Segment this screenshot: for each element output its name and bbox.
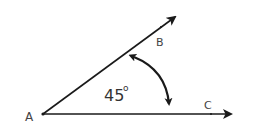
- degree-mark: o: [123, 83, 129, 93]
- angle-diagram: A B C 45 o: [0, 0, 253, 128]
- point-c-marker: [210, 113, 212, 115]
- point-b-marker: [160, 26, 162, 28]
- angle-value: 45: [104, 86, 124, 105]
- label-c: C: [204, 99, 212, 112]
- vertex-point-a: [41, 112, 44, 115]
- angle-arc-arrow: [134, 57, 169, 104]
- label-a: A: [25, 110, 34, 124]
- label-b: B: [156, 36, 164, 49]
